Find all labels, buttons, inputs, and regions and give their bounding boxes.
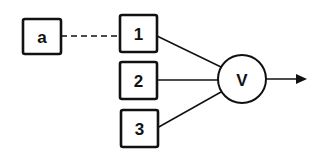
node-1-label: 1: [134, 25, 143, 44]
arrowhead-icon: [296, 74, 307, 84]
node-1: 1: [120, 15, 157, 52]
edge-1-to-v: [157, 36, 221, 67]
diagram-canvas: a 1 2 3 V: [0, 0, 320, 157]
node-a: a: [23, 19, 61, 54]
node-a-label: a: [37, 28, 47, 47]
node-2: 2: [120, 62, 157, 99]
node-3: 3: [121, 110, 158, 147]
edge-3-to-v: [157, 92, 221, 128]
node-3-label: 3: [135, 120, 144, 139]
node-v-label: V: [236, 71, 248, 90]
node-2-label: 2: [134, 72, 143, 91]
node-v: V: [218, 55, 266, 103]
